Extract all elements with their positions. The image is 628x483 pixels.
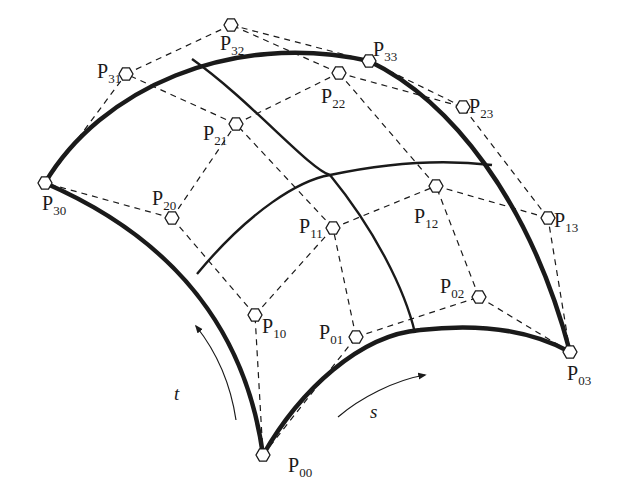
label-p30: P30 [42,192,66,218]
curve-t0-bottom [263,327,570,455]
label-p00: P00 [288,454,312,480]
control-net-edge [172,218,255,315]
control-net-edge [263,337,356,455]
label-p12: P12 [414,205,438,231]
control-net-edge [126,25,231,74]
bezier-surface-figure: P00P01P02P03P10P11P12P13P20P21P22P23P30P… [0,0,628,483]
s-direction-arrow-icon [338,375,425,417]
label-p33: P33 [373,38,397,64]
label-p21: P21 [203,122,227,148]
label-p32: P32 [220,32,244,58]
control-point-p20-icon [165,212,179,224]
iso-s-mid-1 [192,59,330,175]
control-net-edge [436,186,548,218]
label-p02: P02 [440,275,464,301]
control-point-p12-icon [429,180,443,192]
control-net [45,25,570,455]
label-p01: P01 [319,321,343,347]
control-point-p30-icon [38,177,52,189]
control-point-p13-icon [541,212,555,224]
s-parameter-label: s [370,401,377,422]
t-direction-arrow-icon [196,326,236,420]
label-p11: P11 [299,215,323,241]
control-point-labels: P00P01P02P03P10P11P12P13P20P21P22P23P30P… [42,32,591,480]
control-point-p32-icon [224,19,238,31]
control-net-edge [333,228,356,337]
control-net-edge [255,228,333,315]
control-net-edge [231,25,339,73]
label-p03: P03 [567,362,591,388]
control-point-p02-icon [472,291,486,303]
label-p13: P13 [554,209,578,235]
parameter-arrows [196,326,425,420]
label-p23: P23 [469,95,493,121]
t-parameter-label: t [174,383,180,404]
control-point-p10-icon [248,309,262,321]
label-p31: P31 [97,60,121,86]
control-net-edge [339,73,436,186]
control-point-p23-icon [456,101,470,113]
control-point-p01-icon [349,331,363,343]
label-p20: P20 [152,187,176,213]
control-point-p22-icon [332,67,346,79]
control-point-p11-icon [326,222,340,234]
label-p10: P10 [262,315,286,341]
control-point-p21-icon [229,118,243,130]
iso-t-mid-1 [197,162,492,274]
label-p22: P22 [321,85,345,111]
iso-s-mid-1b [330,175,415,333]
control-point-p03-icon [563,346,577,358]
curve-s0-left [45,183,263,455]
control-point-p00-icon [256,449,270,461]
